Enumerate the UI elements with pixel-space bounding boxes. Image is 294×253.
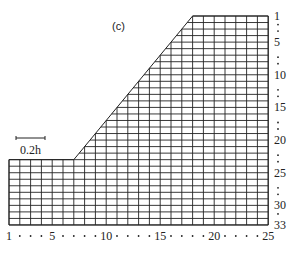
y-axis-tick-dot [277, 24, 279, 26]
y-axis-tick-dot [277, 89, 279, 91]
y-axis-tick-dot [277, 213, 279, 215]
y-axis-tick-dot [277, 161, 279, 163]
y-axis-tick-label: 15 [274, 100, 286, 114]
x-axis-tick-dot [224, 235, 226, 237]
x-axis-column-index: 1510152025 [6, 229, 274, 243]
y-axis-tick-dot [277, 63, 279, 65]
x-axis-tick-label: 5 [49, 229, 55, 243]
x-axis-tick-dot [257, 235, 259, 237]
y-axis-tick-dot [277, 193, 279, 195]
x-axis-tick-dot [138, 235, 140, 237]
y-axis-tick-dot [277, 95, 279, 97]
finite-difference-mesh [9, 16, 268, 225]
x-axis-tick-dot [149, 235, 151, 237]
y-axis-tick-label: 30 [274, 198, 286, 212]
x-axis-tick-dot [127, 235, 129, 237]
y-axis-tick-dot [277, 30, 279, 32]
slope-mesh-diagram: (c) 0.2h 1510152025 15101520253033 [0, 0, 294, 253]
x-axis-tick-dot [203, 235, 205, 237]
x-axis-tick-label: 15 [154, 229, 166, 243]
y-axis-tick-dot [277, 128, 279, 130]
y-axis-tick-dot [277, 56, 279, 58]
y-axis-tick-label: 1 [274, 9, 280, 23]
x-axis-tick-label: 20 [208, 229, 220, 243]
scale-bar-label: 0.2h [20, 143, 41, 157]
x-axis-tick-dot [181, 235, 183, 237]
x-axis-tick-dot [246, 235, 248, 237]
x-axis-tick-label: 25 [262, 229, 274, 243]
x-axis-tick-dot [62, 235, 64, 237]
y-axis-row-index: 15101520253033 [274, 9, 286, 232]
x-axis-tick-label: 1 [6, 229, 12, 243]
panel-label: (c) [112, 20, 125, 32]
y-axis-tick-label: 33 [274, 218, 286, 232]
y-axis-tick-label: 5 [274, 35, 280, 49]
x-axis-tick-dot [84, 235, 86, 237]
x-axis-tick-dot [170, 235, 172, 237]
y-axis-tick-dot [277, 154, 279, 156]
x-axis-tick-dot [19, 235, 21, 237]
y-axis-tick-dot [277, 187, 279, 189]
x-axis-tick-dot [235, 235, 237, 237]
x-axis-tick-dot [41, 235, 43, 237]
x-axis-tick-label: 10 [100, 229, 112, 243]
x-axis-tick-dot [192, 235, 194, 237]
x-axis-tick-dot [30, 235, 32, 237]
y-axis-tick-label: 20 [274, 133, 286, 147]
y-axis-tick-label: 10 [274, 68, 286, 82]
x-axis-tick-dot [95, 235, 97, 237]
scale-bar: 0.2h [16, 136, 45, 157]
x-axis-tick-dot [73, 235, 75, 237]
x-axis-tick-dot [116, 235, 118, 237]
y-axis-tick-label: 25 [274, 166, 286, 180]
y-axis-tick-dot [277, 122, 279, 124]
